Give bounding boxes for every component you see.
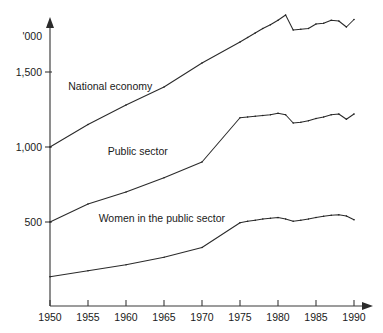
series-data-point (308, 218, 310, 220)
series-data-point (163, 86, 165, 88)
series-data-point (323, 216, 325, 218)
series-data-point (292, 122, 294, 124)
series-data-point (323, 23, 325, 25)
series-data-point (125, 264, 127, 266)
series-data-point (330, 20, 332, 22)
y-tick-label-1000: 1,000 (16, 141, 42, 153)
series-data-point (338, 20, 340, 22)
series-data-point (254, 32, 256, 34)
series-data-point (270, 218, 272, 220)
series-data-point (330, 114, 332, 116)
series-data-point (125, 191, 127, 193)
series-data-point (201, 247, 203, 249)
series-data-point (49, 221, 51, 223)
series-data-point (353, 113, 355, 115)
y-tick-label-1500: 1,500 (16, 66, 42, 78)
series-data-point (201, 62, 203, 64)
x-tick-label-1970: 1970 (190, 311, 214, 323)
series-data-point (292, 29, 294, 31)
x-tick-label-1965: 1965 (152, 311, 176, 323)
series-data-point (277, 20, 279, 22)
series-data-point (300, 29, 302, 31)
series-data-point (308, 28, 310, 30)
x-tick-label-1975: 1975 (228, 311, 252, 323)
series-data-point (338, 113, 340, 115)
series-data-point (247, 37, 249, 39)
series-data-point (49, 146, 51, 148)
series-data-point (254, 219, 256, 221)
series-data-point (262, 28, 264, 30)
series-data-point (239, 41, 241, 43)
y-tick-label-500: 500 (24, 216, 42, 228)
series-data-point (338, 214, 340, 216)
series-data-point (247, 116, 249, 118)
series-data-point (323, 116, 325, 118)
line-chart: '000 1,500 1,000 500 1950 1955 1960 1965… (0, 0, 383, 333)
series-data-point (277, 113, 279, 115)
series-data-point (353, 219, 355, 221)
x-tick-label-1985: 1985 (304, 311, 328, 323)
series-data-point (315, 23, 317, 25)
series-data-point (247, 221, 249, 223)
series-data-point (270, 24, 272, 26)
series-data-point (308, 120, 310, 122)
series-data-point (285, 114, 287, 116)
series-data-point (262, 115, 264, 117)
x-tick-label-1990: 1990 (342, 311, 366, 323)
series-data-point (300, 122, 302, 124)
series-data-point (239, 117, 241, 119)
series-label: Women in the public sector (99, 212, 226, 224)
x-tick-label-1950: 1950 (38, 311, 62, 323)
x-tick-label-1955: 1955 (76, 311, 100, 323)
y-axis-unit-label: '000 (22, 30, 42, 42)
series-data-point (285, 14, 287, 16)
series-label: National economy (68, 80, 153, 92)
x-tick-label-1980: 1980 (266, 311, 290, 323)
series-data-point (163, 177, 165, 179)
series-data-point (163, 257, 165, 259)
series-data-point (87, 203, 89, 205)
series-data-point (239, 222, 241, 224)
series-data-point (270, 114, 272, 116)
series-data-point (346, 215, 348, 217)
series-data-point (346, 119, 348, 121)
series-data-point (353, 19, 355, 21)
series-data-point (87, 124, 89, 126)
series-data-point (285, 218, 287, 220)
x-tick-label-1960: 1960 (114, 311, 138, 323)
series-data-point (125, 104, 127, 106)
series-data-point (49, 276, 51, 278)
chart-container: '000 1,500 1,000 500 1950 1955 1960 1965… (0, 0, 383, 333)
series-data-point (87, 270, 89, 272)
series-data-point (300, 219, 302, 221)
series-data-point (330, 215, 332, 217)
series-data-point (315, 217, 317, 219)
series-data-point (346, 26, 348, 28)
series-data-point (262, 218, 264, 220)
series-data-point (292, 221, 294, 223)
series-data-point (277, 217, 279, 219)
series-data-point (254, 116, 256, 118)
series-data-point (315, 118, 317, 120)
series-label: Public sector (108, 145, 169, 157)
series-data-point (201, 161, 203, 163)
